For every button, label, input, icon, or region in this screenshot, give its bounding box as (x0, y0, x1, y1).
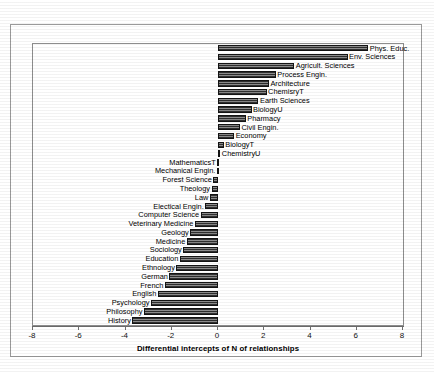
x-axis-tick (310, 326, 311, 330)
bar (201, 212, 218, 218)
x-axis-tick (125, 326, 126, 330)
bar-row: BiologyU (33, 105, 403, 114)
bar-series-layer: Phys. Educ.Env. SciencesAgricult. Scienc… (33, 44, 403, 325)
bar-row: ChemistryU (33, 149, 403, 158)
x-axis-tick-label: 0 (205, 331, 229, 341)
figure-canvas: Phys. Educ.Env. SciencesAgricult. Scienc… (0, 0, 434, 372)
bar (187, 238, 218, 244)
bar (217, 168, 219, 174)
bar-row: MathematicsT (33, 158, 403, 167)
bar-row: Sociology (33, 246, 403, 255)
bar (169, 273, 218, 279)
bar (165, 282, 218, 288)
bar (132, 317, 218, 323)
x-axis-title: Differential intercepts of N of relation… (32, 344, 404, 353)
x-axis-tick-label: -2 (159, 331, 183, 341)
bar (218, 63, 294, 69)
bar-row: Psychology (33, 299, 403, 308)
bar (158, 291, 218, 297)
bar-row: Pharmacy (33, 114, 403, 123)
x-axis-tick (217, 326, 218, 330)
x-axis-tick-label: -8 (20, 331, 44, 341)
bar (218, 106, 252, 112)
bar-row: Architecture (33, 79, 403, 88)
bar (218, 89, 267, 95)
x-axis-tick (78, 326, 79, 330)
bar-row: Forest Science (33, 176, 403, 185)
bar-row: Civil Engin. (33, 123, 403, 132)
x-axis-tick (171, 326, 172, 330)
bar-row: Philosophy (33, 307, 403, 316)
bar (176, 265, 218, 271)
bar-row: Law (33, 193, 403, 202)
bar-row: Geology (33, 228, 403, 237)
x-axis-tick (32, 326, 33, 330)
bar (183, 247, 218, 253)
bar (217, 159, 219, 165)
bar (180, 256, 218, 262)
bar-row: Ethnology (33, 264, 403, 273)
x-axis-tick-label: -6 (66, 331, 90, 341)
x-axis-tick-label: 8 (390, 331, 414, 341)
bar-row: Phys. Educ. (33, 44, 403, 53)
bar-row: Agricult. Sciences (33, 62, 403, 71)
bar (212, 186, 218, 192)
bar-row: ChemisryT (33, 88, 403, 97)
bar (218, 150, 220, 156)
bar-row: Mechanical Engin. (33, 167, 403, 176)
bar-row: Electical Engin. (33, 202, 403, 211)
x-axis-tick (402, 326, 403, 330)
bar (218, 54, 348, 60)
bar (218, 133, 234, 139)
bar-category-label: History (108, 316, 131, 325)
bar (218, 71, 276, 77)
bar-row: Medicine (33, 237, 403, 246)
bar (218, 45, 368, 51)
bar-row: BiologyT (33, 141, 403, 150)
bar-category-label: Env. Sciences (349, 52, 395, 61)
x-axis-tick-label: 4 (298, 331, 322, 341)
bar-row: Theology (33, 185, 403, 194)
x-axis-tick-label: 2 (251, 331, 275, 341)
bar (218, 80, 269, 86)
x-axis-tick-label: -4 (113, 331, 137, 341)
bar (205, 203, 218, 209)
bar-row: History (33, 316, 403, 325)
x-axis-tick-label: 6 (344, 331, 368, 341)
bar (144, 308, 218, 314)
bar-row: French (33, 281, 403, 290)
bar-row: English (33, 290, 403, 299)
x-axis-tick (356, 326, 357, 330)
bar (218, 142, 224, 148)
bar-row: Economy (33, 132, 403, 141)
bar-row: Education (33, 255, 403, 264)
bar-category-label: ChemistryU (222, 149, 261, 158)
x-axis-line (32, 326, 404, 327)
bar (218, 98, 258, 104)
bar (195, 221, 218, 227)
bar-row: Process Engin. (33, 70, 403, 79)
bar (213, 177, 218, 183)
bar-row: Earth Sciences (33, 97, 403, 106)
bar (151, 300, 218, 306)
bar-row: Veterinary Medicine (33, 220, 403, 229)
bar (210, 194, 218, 200)
bar-row: Computer Science (33, 211, 403, 220)
bar (218, 124, 240, 130)
bar-row: German (33, 272, 403, 281)
x-axis-tick (263, 326, 264, 330)
bar (218, 115, 246, 121)
bar (190, 229, 218, 235)
